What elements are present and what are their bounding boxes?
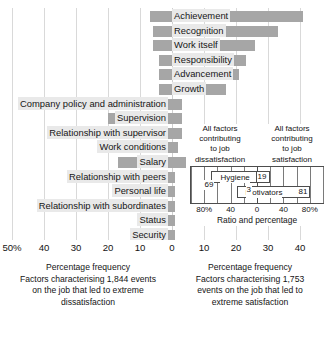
chart-row: Achievement: [0, 10, 332, 25]
inset-heading-right-line: contributing: [258, 134, 326, 144]
inset-axis-tick: 0: [255, 205, 259, 215]
inset-heading-right-line: to job: [258, 144, 326, 154]
caption-left-line2: Factors characterising 1,844 events: [8, 274, 168, 286]
axis-tick: 40: [39, 242, 50, 254]
bar-label: Supervision: [115, 111, 168, 124]
bar-dissatisfaction: [159, 55, 172, 66]
bar-label: Company policy and administration: [18, 97, 168, 110]
axis-tick: 40: [295, 242, 306, 254]
bar-label: Relationship with peers: [67, 170, 168, 183]
inset-headings: All factorscontributingto jobdissatisfac…: [186, 124, 328, 166]
chart-row: Company policy and administration: [0, 98, 332, 113]
bar-label: Personal life: [112, 184, 168, 197]
bar-satisfaction: [172, 201, 175, 212]
inset-heading-left-line: All factors: [186, 124, 254, 134]
axis-tick: 50%: [2, 242, 21, 254]
inset-axis-tick: 40: [279, 205, 288, 215]
bar-label: Growth: [172, 82, 206, 95]
bar-dissatisfaction: [159, 84, 172, 95]
inset-heading-right-line: satisfaction: [258, 155, 326, 165]
bar-dissatisfaction: [153, 40, 172, 51]
axis-line: [12, 240, 320, 241]
bar-dissatisfaction: [150, 11, 172, 22]
bar-satisfaction: [172, 99, 182, 110]
bar-dissatisfaction: [153, 26, 172, 37]
axis-tick: 0: [169, 242, 174, 254]
x-axis: 50%40302010010203040: [0, 240, 332, 260]
inset-grid-line: [323, 167, 324, 203]
inset-grid-line: [191, 167, 192, 203]
bar-label: Security: [130, 228, 168, 241]
caption-dissatisfaction: Percentage frequency Factors characteris…: [8, 262, 168, 308]
bar-label: Advancement: [172, 67, 233, 80]
inset-ratio-chart: All factorscontributingto jobdissatisfac…: [186, 124, 328, 226]
inset-heading-left-line: dissatisfaction: [186, 155, 254, 165]
chart-row: Growth: [0, 83, 332, 98]
inset-value-right: 19: [257, 172, 268, 182]
axis-tick: 20: [103, 242, 114, 254]
inset-heading-right-line: All factors: [258, 124, 326, 134]
caption-left-line4: dissatisfaction: [8, 297, 168, 309]
caption-right-line3: events on the job that led to: [176, 285, 324, 297]
bar-label: Achievement: [172, 9, 230, 22]
bar-satisfaction: [172, 142, 178, 153]
bar-satisfaction: [172, 215, 175, 226]
inset-heading-dissatisfaction: All factorscontributingto jobdissatisfac…: [186, 124, 254, 165]
chart-row: Advancement: [0, 68, 332, 83]
bar-satisfaction: [172, 186, 175, 197]
caption-left-line1: Percentage frequency: [8, 262, 168, 274]
bar-label: Recognition: [172, 24, 226, 37]
bar-label: Status: [137, 213, 168, 226]
chart-row: Responsibility: [0, 54, 332, 69]
inset-plot-box: Hygiene6919Motivators381: [190, 166, 324, 204]
caption-satisfaction: Percentage frequency Factors characteris…: [176, 262, 324, 308]
bar-label: Salary: [137, 155, 168, 168]
herzberg-two-factor-chart: AchievementRecognitionWork itselfRespons…: [0, 0, 332, 337]
caption-right-line4: extreme satisfaction: [176, 297, 324, 309]
caption-left-line3: on the job that led to extreme: [8, 285, 168, 297]
inset-heading-left-line: contributing: [186, 134, 254, 144]
caption-right-line1: Percentage frequency: [176, 262, 324, 274]
bar-satisfaction: [172, 172, 175, 183]
inset-value-left: 69: [203, 180, 214, 190]
axis-tick: 10: [135, 242, 146, 254]
chart-row: Recognition: [0, 25, 332, 40]
inset-axis-tick: 40: [226, 205, 235, 215]
axis-tick: 20: [231, 242, 242, 254]
inset-value-left: 3: [246, 185, 252, 195]
bar-label: Relationship with supervisor: [47, 126, 168, 139]
chart-row: Work itself: [0, 39, 332, 54]
axis-tick: 10: [199, 242, 210, 254]
inset-axis-tick: 80%: [196, 205, 212, 215]
inset-axis-label: Ratio and percentage: [186, 215, 328, 226]
bar-label: Responsibility: [172, 53, 234, 66]
inset-value-right: 81: [297, 187, 308, 197]
inset-axis-tick: 80%: [302, 205, 318, 215]
inset-heading-satisfaction: All factorscontributingto jobsatisfactio…: [258, 124, 326, 165]
bar-label: Relationship with subordinates: [37, 199, 168, 212]
bar-label: Work conditions: [97, 140, 168, 153]
chart-captions: Percentage frequency Factors characteris…: [0, 262, 332, 334]
inset-bar-name: Hygiene: [220, 172, 249, 183]
axis-tick: 30: [263, 242, 274, 254]
inset-heading-left-line: to job: [186, 144, 254, 154]
bar-satisfaction: [172, 128, 182, 139]
bar-satisfaction: [172, 113, 182, 124]
axis-tick: 30: [71, 242, 82, 254]
bar-label: Work itself: [172, 38, 220, 51]
bar-dissatisfaction: [159, 69, 172, 80]
caption-right-line2: Factors characterising 1,753: [176, 274, 324, 286]
